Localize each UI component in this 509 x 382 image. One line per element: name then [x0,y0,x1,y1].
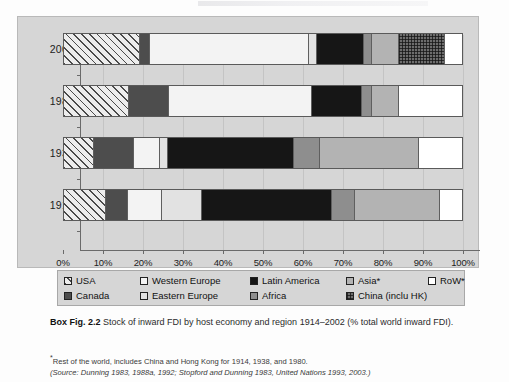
figure-label: Box Fig. 2.2 [50,317,101,327]
segment-africa [364,34,372,64]
x-axis-tick-label: 90% [403,257,443,268]
segment-weurope [134,138,160,168]
x-axis-tick [463,250,464,254]
legend-label-asia: Asia* [358,275,380,286]
segment-row [399,86,463,116]
segment-eeurope [309,34,317,64]
legend-label-usa: USA [76,275,96,286]
legend-item-africa: Africa [250,290,286,301]
bar-1938 [63,137,463,169]
legend-label-china: China (inclu HK) [358,290,427,301]
legend-item-usa: USA [64,275,96,286]
segment-row [445,34,463,64]
segment-asia [320,138,419,168]
segment-latin [317,34,364,64]
y-axis-tick [77,179,81,180]
legend-item-china: China (inclu HK) [346,290,427,301]
segment-usa [64,86,129,116]
bar-1980 [63,85,463,117]
gridline [463,35,464,250]
segment-asia [355,190,440,220]
legend-swatch-asia [346,277,354,285]
segment-canada [94,138,134,168]
page-header-artifact [198,1,428,6]
segment-usa [64,34,140,64]
x-axis-tick-label: 70% [323,257,363,268]
x-axis-tick-label: 30% [163,257,203,268]
legend-item-weurope: Western Europe [140,275,220,286]
segment-latin [312,86,362,116]
legend-item-canada: Canada [64,290,109,301]
footnote-text: Rest of the world, includes China and Ho… [53,357,308,366]
legend-swatch-canada [64,292,72,300]
chart-legend: USAWestern EuropeLatin AmericaAsia*RoW* … [57,270,465,306]
x-axis-tick [223,250,224,254]
legend-swatch-africa [250,292,258,300]
segment-africa [294,138,320,168]
x-axis-tick-label: 80% [363,257,403,268]
segment-weurope [128,190,162,220]
segment-africa [332,190,355,220]
legend-label-eeurope: Eastern Europe [152,290,218,301]
segment-row [419,138,463,168]
figure-caption-text: Stock of inward FDI by host economy and … [103,317,453,327]
segment-africa [362,86,372,116]
segment-eeurope [160,138,168,168]
y-axis-tick [77,231,81,232]
bar-1914 [63,189,463,221]
x-axis-line [80,250,480,251]
x-axis-tick [263,250,264,254]
legend-item-latin: Latin America [250,275,320,286]
legend-swatch-latin [250,277,258,285]
segment-latin [168,138,294,168]
segment-canada [106,190,128,220]
legend-swatch-china [346,292,354,300]
x-axis-tick [303,250,304,254]
segment-eeurope [162,190,202,220]
figure-caption: Box Fig. 2.2 Stock of inward FDI by host… [50,316,470,329]
footnote-star-note: *Rest of the world, includes China and H… [50,352,470,367]
x-axis-tick-label: 60% [283,257,323,268]
legend-swatch-usa [64,277,72,285]
x-axis-tick [383,250,384,254]
x-axis-tick [103,250,104,254]
legend-label-africa: Africa [262,290,286,301]
y-axis-tick [77,75,81,76]
segment-weurope [150,34,309,64]
x-axis-tick [143,250,144,254]
legend-swatch-eeurope [140,292,148,300]
x-axis-tick-label: 40% [203,257,243,268]
x-axis-tick-label: 10% [83,257,123,268]
x-axis-tick [423,250,424,254]
segment-weurope [169,86,312,116]
legend-swatch-weurope [140,277,148,285]
segment-latin [202,190,332,220]
x-axis-tick [183,250,184,254]
segment-canada [129,86,169,116]
x-axis-tick-label: 0% [43,257,83,268]
x-axis-tick [63,250,64,254]
legend-label-canada: Canada [76,290,109,301]
segment-canada [140,34,150,64]
legend-item-row: RoW* [428,275,465,286]
segment-usa [64,190,106,220]
segment-row [440,190,463,220]
legend-label-weurope: Western Europe [152,275,220,286]
segment-asia [372,34,399,64]
x-axis-tick [343,250,344,254]
x-axis-tick-label: 50% [243,257,283,268]
x-axis-tick-label: 20% [123,257,163,268]
legend-item-eeurope: Eastern Europe [140,290,218,301]
y-axis-tick [77,127,81,128]
chart-plot-area: 0%10%20%30%40%50%60%70%80%90%100% 200219… [17,16,479,268]
bar-2002 [63,33,463,65]
segment-china [399,34,445,64]
legend-item-asia: Asia* [346,275,380,286]
figure-page: 0%10%20%30%40%50%60%70%80%90%100% 200219… [0,0,509,382]
segment-usa [64,138,94,168]
footnote-source: (Source: Dunning 1983, 1988a, 1992; Stop… [50,367,470,378]
x-axis-tick-label: 100% [443,257,483,268]
legend-swatch-row [428,277,436,285]
figure-footnote: *Rest of the world, includes China and H… [50,352,470,378]
legend-label-row: RoW* [440,275,465,286]
